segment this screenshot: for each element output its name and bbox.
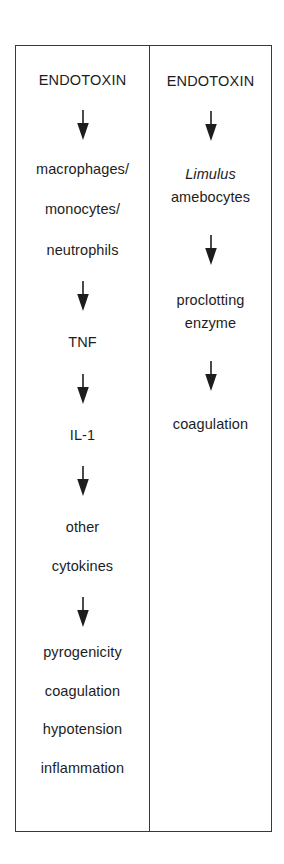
node-coagulation-left: coagulation — [45, 684, 120, 699]
node-endotoxin-left: ENDOTOXIN — [39, 73, 127, 88]
node-neutrophils: neutrophils — [46, 243, 118, 258]
node-cytokines: cytokines — [52, 559, 113, 574]
arrow-amebocytes-to-proclotting — [202, 235, 220, 265]
node-other: other — [66, 520, 100, 535]
node-il1: IL-1 — [70, 428, 95, 443]
figure-root: ENDOTOXIN macrophages/ monocytes/ neutro… — [0, 0, 284, 864]
flow-left: ENDOTOXIN macrophages/ monocytes/ neutro… — [16, 73, 149, 775]
node-proclotting: proclotting — [177, 293, 245, 308]
node-amebocytes: amebocytes — [171, 190, 250, 205]
arrow-endotoxin-to-cells — [74, 110, 92, 140]
node-inflammation: inflammation — [41, 761, 124, 776]
node-coagulation-right: coagulation — [173, 417, 248, 432]
arrow-tnf-to-il1 — [74, 374, 92, 404]
panel-limulus-pathway: ENDOTOXIN Limulus amebocytes — [150, 46, 271, 831]
arrow-cytokines-to-effects — [74, 597, 92, 627]
arrow-endotoxin-to-amebocytes — [202, 111, 220, 141]
node-macrophages: macrophages/ — [36, 162, 129, 177]
node-pyrogenicity: pyrogenicity — [43, 645, 122, 660]
panel-mammalian-pathway: ENDOTOXIN macrophages/ monocytes/ neutro… — [16, 46, 150, 831]
arrow-cells-to-tnf — [74, 281, 92, 311]
arrow-il1-to-cytokines — [74, 466, 92, 496]
arrow-proclotting-to-coagulation — [202, 361, 220, 391]
down-arrow-icon — [74, 281, 92, 311]
down-arrow-icon — [74, 374, 92, 404]
down-arrow-icon — [74, 597, 92, 627]
node-enzyme: enzyme — [185, 316, 236, 331]
down-arrow-icon — [74, 466, 92, 496]
node-monocytes: monocytes/ — [45, 202, 120, 217]
node-hypotension: hypotension — [43, 722, 122, 737]
flow-right: ENDOTOXIN Limulus amebocytes — [150, 74, 271, 431]
down-arrow-icon — [74, 110, 92, 140]
node-limulus: Limulus — [185, 167, 236, 182]
down-arrow-icon — [202, 111, 220, 141]
node-endotoxin-right: ENDOTOXIN — [167, 74, 255, 89]
node-tnf: TNF — [68, 335, 97, 350]
down-arrow-icon — [202, 361, 220, 391]
down-arrow-icon — [202, 235, 220, 265]
diagram-outer-box: ENDOTOXIN macrophages/ monocytes/ neutro… — [15, 45, 272, 832]
